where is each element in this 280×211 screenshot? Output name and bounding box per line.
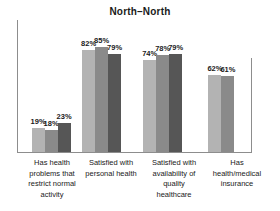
plot-area: 19%18%23%82%85%79%74%78%79%62%61% xyxy=(17,20,252,153)
x-tick-label-line: activity xyxy=(14,190,90,201)
bar-slot: 74% xyxy=(143,20,156,152)
bar[interactable] xyxy=(143,60,156,152)
x-tick-label: Hashealth/medicalinsurance xyxy=(200,158,274,190)
bar-value-label: 61% xyxy=(220,66,235,74)
bar-group-bars: 82%85%79% xyxy=(82,20,121,152)
x-tick-label-line: health/medical xyxy=(200,169,274,180)
bar-slot: 85% xyxy=(95,20,108,152)
bar-slot: 79% xyxy=(169,20,182,152)
bar-slot: 18% xyxy=(45,20,58,152)
chart-title: North–North xyxy=(0,6,280,17)
y-axis-line xyxy=(17,20,18,153)
plot-right-border xyxy=(251,58,252,153)
bar-slot: 23% xyxy=(58,20,71,152)
x-tick-label-line: restrict normal xyxy=(14,179,90,190)
x-tick-label: Satisfied withpersonal health xyxy=(76,158,146,179)
bar-group: 19%18%23% xyxy=(32,20,71,152)
x-tick-label-line: healthcare xyxy=(138,190,210,201)
bar[interactable] xyxy=(156,55,169,152)
bar-slot: 79% xyxy=(108,20,121,152)
bar-slot: 62% xyxy=(208,20,221,152)
x-tick-label-line: personal health xyxy=(76,169,146,180)
bar-slot: 19% xyxy=(32,20,45,152)
x-tick-label-line: insurance xyxy=(200,179,274,190)
bar-group: 82%85%79% xyxy=(82,20,121,152)
bar[interactable] xyxy=(32,128,45,152)
bar[interactable] xyxy=(58,123,71,152)
x-tick-label-line: Satisfied with xyxy=(76,158,146,169)
bar[interactable] xyxy=(108,54,121,152)
bar-group: 74%78%79% xyxy=(143,20,182,152)
bar-group-bars: 62%61% xyxy=(208,20,234,152)
bar[interactable] xyxy=(221,76,234,152)
bar-group-bars: 19%18%23% xyxy=(32,20,71,152)
bar[interactable] xyxy=(82,50,95,152)
bar[interactable] xyxy=(45,130,58,152)
bar-value-label: 79% xyxy=(168,44,183,52)
bar-value-label: 79% xyxy=(107,44,122,52)
bar-chart-figure: North–North 19%18%23%82%85%79%74%78%79%6… xyxy=(0,0,280,211)
bar[interactable] xyxy=(208,75,221,152)
bar[interactable] xyxy=(169,54,182,152)
bar[interactable] xyxy=(95,47,108,152)
x-axis-line xyxy=(17,152,252,153)
bar-group-bars: 74%78%79% xyxy=(143,20,182,152)
bar-value-label: 23% xyxy=(57,113,72,121)
bar-slot: 61% xyxy=(221,20,234,152)
bar-group: 62%61% xyxy=(208,20,234,152)
bar-slot: 78% xyxy=(156,20,169,152)
x-tick-label-line: Has xyxy=(200,158,274,169)
bar-value-label: 18% xyxy=(44,120,59,128)
